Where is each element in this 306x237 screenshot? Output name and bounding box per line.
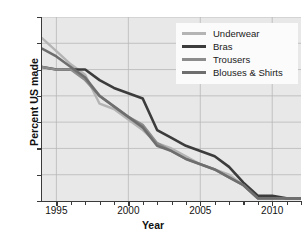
y-tick-mark: [37, 70, 42, 71]
chart-figure: Percent US made Year 0102030405060701995…: [0, 0, 306, 237]
legend-swatch-icon: [182, 71, 206, 74]
x-tick-label: 1995: [31, 205, 81, 216]
x-tick-label: 2005: [175, 205, 225, 216]
x-minor-tick-mark: [114, 201, 115, 205]
series-line: [42, 67, 301, 198]
x-minor-tick-mark: [157, 201, 158, 205]
x-minor-tick-mark: [186, 201, 187, 205]
x-axis-title: Year: [0, 219, 306, 231]
legend-label: Underwear: [213, 28, 259, 39]
y-tick-mark: [37, 43, 42, 44]
legend-swatch-icon: [182, 58, 206, 61]
x-minor-tick-mark: [287, 201, 288, 205]
x-minor-tick-mark: [71, 201, 72, 205]
legend-item[interactable]: Underwear: [176, 27, 298, 40]
x-minor-tick-mark: [301, 201, 302, 205]
legend-swatch-icon: [182, 32, 206, 35]
x-minor-tick-mark: [172, 201, 173, 205]
legend-item[interactable]: Blouses & Shirts: [176, 66, 298, 79]
legend-label: Trousers: [213, 54, 250, 65]
y-tick-mark: [37, 96, 42, 97]
y-tick-mark: [37, 175, 42, 176]
x-minor-tick-mark: [243, 201, 244, 205]
x-minor-tick-mark: [143, 201, 144, 205]
legend-label: Bras: [213, 41, 233, 52]
y-axis-title: Percent US made: [28, 22, 40, 182]
series-line: [42, 67, 301, 198]
legend-swatch-icon: [182, 45, 206, 48]
x-minor-tick-mark: [100, 201, 101, 205]
x-tick-label: 2010: [247, 205, 297, 216]
legend-item[interactable]: Bras: [176, 40, 298, 53]
x-minor-tick-mark: [229, 201, 230, 205]
chart-legend: Underwear Bras Trousers Blouses & Shirts: [176, 23, 298, 84]
y-tick-mark: [37, 17, 42, 18]
y-tick-mark: [37, 148, 42, 149]
y-tick-mark: [37, 122, 42, 123]
legend-label: Blouses & Shirts: [213, 67, 283, 78]
x-tick-label: 2000: [103, 205, 153, 216]
legend-item[interactable]: Trousers: [176, 53, 298, 66]
x-minor-tick-mark: [258, 201, 259, 205]
x-minor-tick-mark: [85, 201, 86, 205]
y-tick-mark: [37, 201, 42, 202]
x-minor-tick-mark: [215, 201, 216, 205]
